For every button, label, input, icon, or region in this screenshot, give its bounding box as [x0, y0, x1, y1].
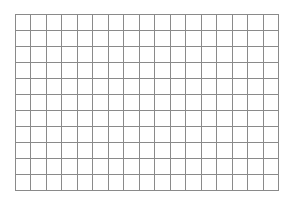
grid-cell: [155, 63, 170, 79]
grid-cell: [62, 127, 77, 143]
grid-cell: [31, 79, 46, 95]
grid-cell: [155, 31, 170, 47]
grid-cell: [47, 159, 62, 175]
grid-cell: [93, 31, 108, 47]
grid-cell: [109, 95, 124, 111]
grid-cell: [93, 95, 108, 111]
grid-cell: [186, 175, 201, 191]
grid-cell: [31, 63, 46, 79]
grid-cell: [16, 175, 31, 191]
grid-cell: [155, 47, 170, 63]
grid-cell: [62, 159, 77, 175]
grid-cell: [264, 15, 279, 31]
grid-cell: [155, 111, 170, 127]
grid-cell: [155, 127, 170, 143]
grid-cell: [47, 47, 62, 63]
grid-cell: [202, 31, 217, 47]
grid-cell: [16, 79, 31, 95]
grid-cell: [171, 31, 186, 47]
grid-cell: [62, 63, 77, 79]
grid-cell: [264, 31, 279, 47]
grid-cell: [109, 111, 124, 127]
grid-cell: [217, 111, 232, 127]
grid-cell: [248, 31, 263, 47]
grid-cell: [202, 127, 217, 143]
grid-cell: [233, 143, 248, 159]
grid-cell: [248, 127, 263, 143]
grid-cell: [47, 15, 62, 31]
grid-cell: [140, 79, 155, 95]
grid-cell: [140, 63, 155, 79]
grid-cell: [233, 63, 248, 79]
grid-cell: [202, 175, 217, 191]
grid-cell: [31, 111, 46, 127]
grid-cell: [78, 143, 93, 159]
grid-cell: [124, 79, 139, 95]
grid-cell: [124, 175, 139, 191]
grid-cell: [186, 15, 201, 31]
grid-cell: [264, 95, 279, 111]
grid-cell: [16, 63, 31, 79]
grid-cell: [171, 143, 186, 159]
grid-cell: [109, 127, 124, 143]
grid-cell: [171, 63, 186, 79]
grid-cell: [78, 159, 93, 175]
grid-cell: [186, 79, 201, 95]
grid-cell: [217, 63, 232, 79]
grid-cell: [62, 95, 77, 111]
grid-cell: [31, 31, 46, 47]
grid-cell: [109, 31, 124, 47]
grid-cell: [264, 127, 279, 143]
grid-cell: [233, 95, 248, 111]
grid-cell: [248, 159, 263, 175]
grid-cell: [248, 63, 263, 79]
grid-cell: [78, 95, 93, 111]
grid-cell: [233, 127, 248, 143]
grid-cell: [248, 95, 263, 111]
grid-cell: [124, 63, 139, 79]
blank-grid: [15, 14, 279, 191]
grid-cell: [217, 95, 232, 111]
grid-cell: [217, 15, 232, 31]
grid-cell: [171, 159, 186, 175]
grid-cell: [78, 79, 93, 95]
grid-cell: [124, 47, 139, 63]
grid-cell: [16, 95, 31, 111]
grid-cell: [155, 79, 170, 95]
grid-cell: [16, 15, 31, 31]
grid-cell: [78, 47, 93, 63]
grid-cell: [171, 175, 186, 191]
grid-cell: [47, 143, 62, 159]
grid-cell: [31, 127, 46, 143]
grid-cell: [171, 127, 186, 143]
grid-cell: [47, 127, 62, 143]
grid-cell: [109, 47, 124, 63]
grid-cell: [264, 63, 279, 79]
grid-cell: [78, 111, 93, 127]
grid-cell: [264, 47, 279, 63]
grid-cell: [155, 159, 170, 175]
grid-cell: [31, 159, 46, 175]
grid-cell: [264, 175, 279, 191]
grid-cell: [248, 15, 263, 31]
grid-cell: [93, 143, 108, 159]
grid-cell: [47, 63, 62, 79]
grid-cell: [47, 95, 62, 111]
grid-cell: [248, 79, 263, 95]
grid-cell: [31, 15, 46, 31]
grid-cell: [264, 111, 279, 127]
grid-cell: [124, 111, 139, 127]
grid-cell: [62, 31, 77, 47]
grid-cell: [217, 79, 232, 95]
grid-cell: [233, 47, 248, 63]
grid-cell: [217, 31, 232, 47]
grid-cell: [78, 63, 93, 79]
grid-cell: [171, 15, 186, 31]
grid-cell: [62, 111, 77, 127]
grid-cell: [16, 111, 31, 127]
grid-cell: [47, 111, 62, 127]
grid-cell: [217, 127, 232, 143]
grid-cell: [186, 95, 201, 111]
grid-cell: [202, 143, 217, 159]
grid-cell: [31, 143, 46, 159]
